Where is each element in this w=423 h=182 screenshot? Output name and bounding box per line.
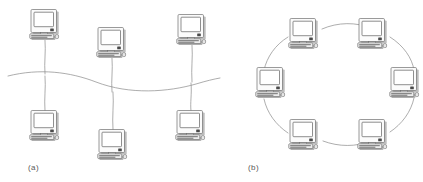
computer-icon-bus-bottom-right [176,111,205,142]
drop-cable-top-right [192,45,193,82]
computer-icon-ring-bottom-left [289,120,318,151]
computer-icon-ring-top-left [289,19,318,50]
bus-nodes [30,10,206,161]
computer-icon-ring-top-right [358,19,387,50]
drop-cable-top-left [45,40,46,74]
ring-arc-bottom-right [390,98,414,132]
ring-nodes [256,19,419,151]
computer-icon-bus-top-middle [97,28,126,59]
computer-icon-ring-right [390,68,419,99]
bus-backbone-line [8,72,220,91]
ring-arc-bottom-left [264,99,288,133]
ring-arc-top-right [390,37,414,70]
computer-icon-ring-bottom-right [358,120,387,151]
drop-cable-bottom-left [45,76,46,111]
drop-cable-bottom-middle [113,92,114,130]
panel-bus-topology: (a) [8,10,220,173]
panel-caption-b: (b) [248,163,259,172]
panel-caption-a: (a) [28,163,39,172]
computer-icon-bus-top-left [30,10,59,41]
computer-icon-bus-top-right [177,15,206,46]
ring-arc-top-left [264,37,288,70]
computer-icon-bus-bottom-left [30,111,59,142]
figure-canvas: (a) (b) [0,0,423,182]
panel-ring-topology: (b) [248,19,419,173]
computer-icon-bus-bottom-middle [98,130,127,161]
drop-cable-bottom-right [191,83,192,111]
computer-icon-ring-left [256,68,285,99]
network-topology-figure: (a) (b) [0,0,423,182]
